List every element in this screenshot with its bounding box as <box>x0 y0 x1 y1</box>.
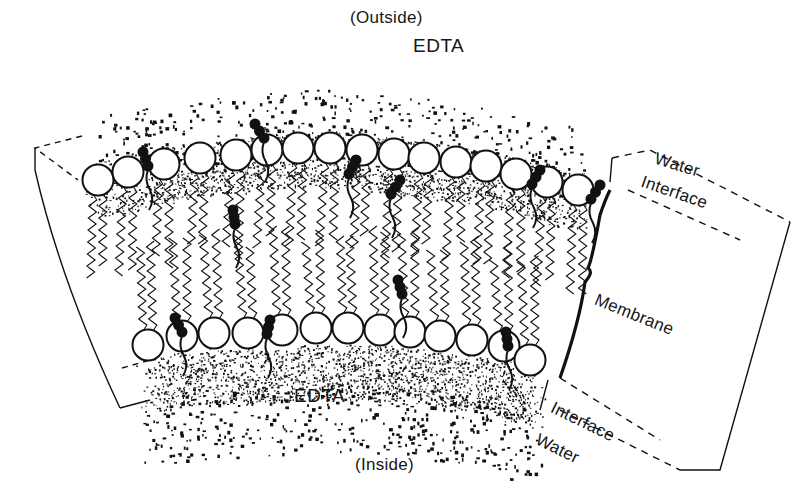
label-inside: (Inside) <box>355 455 414 475</box>
label-edta-bottom: EDTA <box>294 385 345 407</box>
bilayer-illustration <box>0 0 795 497</box>
label-edta-top: EDTA <box>413 35 464 57</box>
membrane-diagram: (Outside) (Inside) EDTA EDTA Water Inter… <box>0 0 795 497</box>
label-outside: (Outside) <box>350 8 423 28</box>
